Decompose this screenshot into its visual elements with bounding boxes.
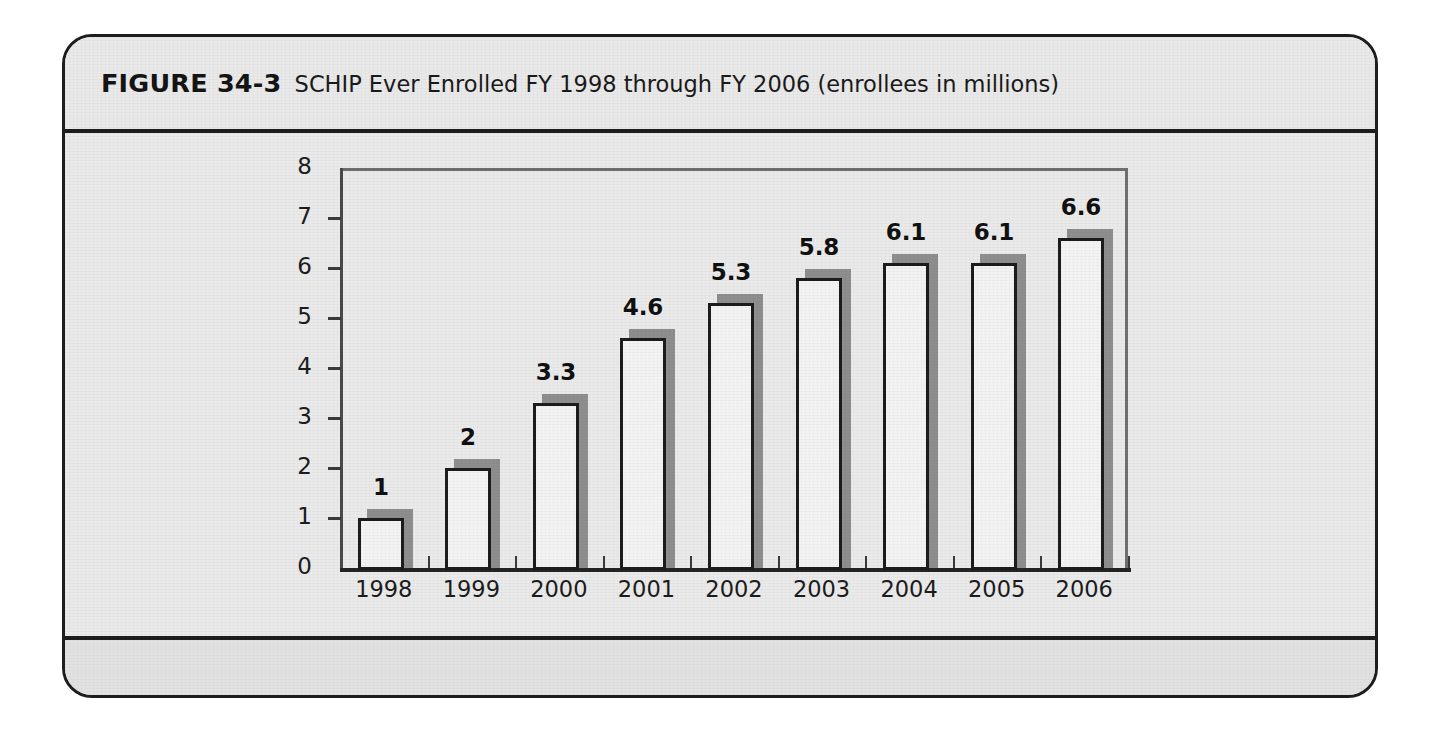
bar[interactable] xyxy=(620,338,666,570)
bar[interactable] xyxy=(708,303,754,570)
bar-value-label: 3.3 xyxy=(513,359,599,385)
y-axis-tick-label: 1 xyxy=(272,503,312,529)
x-axis-tick xyxy=(953,556,955,568)
bar-value-label: 1 xyxy=(338,474,424,500)
x-axis-tick-label: 2006 xyxy=(1039,576,1129,602)
x-axis-tick xyxy=(1040,556,1042,568)
x-axis-tick-label: 2004 xyxy=(864,576,954,602)
bar-value-label: 5.3 xyxy=(688,259,774,285)
bar[interactable] xyxy=(971,263,1017,570)
y-axis-tick xyxy=(328,367,341,370)
x-axis-tick xyxy=(690,556,692,568)
x-axis-tick-label: 2001 xyxy=(601,576,691,602)
y-axis-tick xyxy=(328,217,341,220)
y-axis-tick-label: 4 xyxy=(272,353,312,379)
y-axis-tick-label: 6 xyxy=(272,253,312,279)
bar[interactable] xyxy=(883,263,929,570)
y-axis-tick-label: 2 xyxy=(272,453,312,479)
x-axis-tick-label: 2005 xyxy=(952,576,1042,602)
bar-value-label: 6.1 xyxy=(951,219,1037,245)
bar[interactable] xyxy=(1058,238,1104,570)
figure-footer-strip xyxy=(65,636,1375,695)
caption-inner: FIGURE 34-3 SCHIP Ever Enrolled FY 1998 … xyxy=(65,68,1083,98)
x-axis-tick xyxy=(428,556,430,568)
chart-plot-area: 012345678 199819992000200120022003200420… xyxy=(65,133,1375,636)
x-axis-tick xyxy=(515,556,517,568)
bar[interactable] xyxy=(445,468,491,570)
bar-value-label: 6.6 xyxy=(1038,194,1124,220)
x-axis-tick-label: 2002 xyxy=(689,576,779,602)
x-axis-tick-label: 2003 xyxy=(777,576,867,602)
bar-value-label: 5.8 xyxy=(776,234,862,260)
figure-caption-strip: FIGURE 34-3 SCHIP Ever Enrolled FY 1998 … xyxy=(65,37,1375,133)
x-axis-tick xyxy=(778,556,780,568)
figure-caption-text: SCHIP Ever Enrolled FY 1998 through FY 2… xyxy=(295,71,1059,97)
x-axis-tick xyxy=(603,556,605,568)
figure-container: FIGURE 34-3 SCHIP Ever Enrolled FY 1998 … xyxy=(62,34,1378,698)
y-axis-tick xyxy=(328,467,341,470)
y-axis-tick-label: 0 xyxy=(272,553,312,579)
figure-number: FIGURE 34-3 xyxy=(101,68,282,98)
y-axis-tick-label: 7 xyxy=(272,203,312,229)
x-axis-tick-label: 1999 xyxy=(426,576,516,602)
y-axis-tick xyxy=(328,417,341,420)
y-axis-tick xyxy=(328,267,341,270)
y-axis-tick-label: 3 xyxy=(272,403,312,429)
y-axis-tick-label: 5 xyxy=(272,303,312,329)
x-axis-tick-label: 2000 xyxy=(514,576,604,602)
bar[interactable] xyxy=(533,403,579,570)
bar-value-label: 6.1 xyxy=(863,219,949,245)
x-axis-tick-label: 1998 xyxy=(339,576,429,602)
bar-value-label: 4.6 xyxy=(600,294,686,320)
x-axis-tick xyxy=(1128,556,1130,568)
bar[interactable] xyxy=(796,278,842,570)
y-axis-tick-label: 8 xyxy=(272,153,312,179)
bar[interactable] xyxy=(358,518,404,570)
bar-value-label: 2 xyxy=(425,424,511,450)
y-axis-tick xyxy=(328,517,341,520)
y-axis-tick xyxy=(328,317,341,320)
x-axis-tick xyxy=(865,556,867,568)
